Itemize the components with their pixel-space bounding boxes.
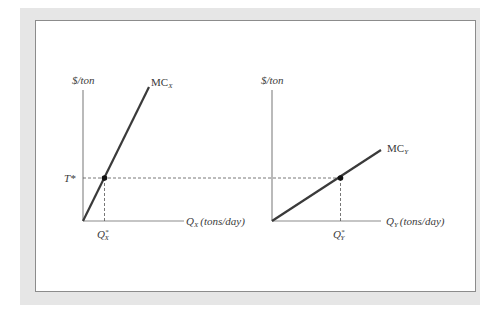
mc-y-label: MCY: [387, 142, 409, 156]
mc-x-label: MCX: [151, 76, 173, 90]
marginal-cost-diagram: $/ton MCX T* QX(tons/day) Q*X $/ton MCY …: [0, 0, 484, 311]
right-x-axis-label: QY(tons/day): [386, 215, 445, 229]
left-equilibrium-quantity-label: Q*X: [97, 228, 109, 242]
mc-y-curve: [272, 150, 381, 221]
right-equilibrium-quantity-label: Q*Y: [333, 228, 345, 242]
tax-label: T*: [64, 172, 76, 184]
mc-x-curve: [83, 87, 149, 221]
right-y-axis-label: $/ton: [261, 74, 284, 86]
right-equilibrium-point: [338, 175, 344, 181]
right-chart: $/ton MCY QY(tons/day) Q*Y: [261, 74, 445, 242]
left-chart: $/ton MCX T* QX(tons/day) Q*X: [64, 74, 340, 242]
left-x-axis-label: QX(tons/day): [186, 215, 245, 229]
left-equilibrium-point: [102, 175, 108, 181]
left-y-axis-label: $/ton: [72, 74, 95, 86]
